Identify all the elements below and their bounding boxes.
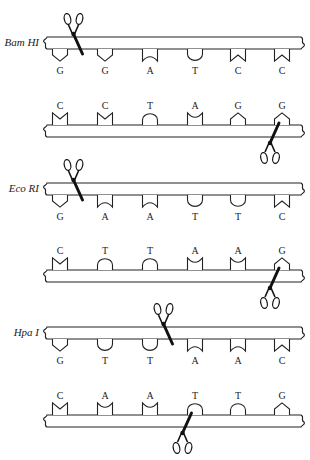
bottom-strand-backbone xyxy=(44,125,305,137)
top-base-a xyxy=(143,49,158,61)
top-base-letter: C xyxy=(279,211,286,222)
top-base-a xyxy=(143,195,158,207)
top-base-a xyxy=(231,339,246,351)
bottom-strand-backbone xyxy=(44,270,305,282)
enzyme-label: Eco RI xyxy=(8,182,41,194)
top-base-letter: G xyxy=(101,65,108,76)
top-base-c xyxy=(275,195,290,207)
top-base-letter: A xyxy=(146,65,154,76)
bottom-base-g xyxy=(275,403,290,415)
bottom-base-letter: A xyxy=(234,245,242,256)
enzyme-label: Bam HI xyxy=(4,36,40,48)
bottom-base-a xyxy=(231,258,246,270)
top-base-letter: T xyxy=(192,211,198,222)
bottom-base-letter: G xyxy=(234,100,241,111)
bottom-base-t xyxy=(231,404,246,415)
enzyme-panel: Hpa IGTTAACCAATTG xyxy=(13,303,305,454)
bottom-base-t xyxy=(98,259,113,270)
top-base-g xyxy=(98,49,113,61)
bottom-base-c xyxy=(53,113,68,125)
top-base-t xyxy=(143,339,158,350)
top-base-a xyxy=(98,195,113,207)
bottom-base-t xyxy=(143,259,158,270)
bottom-base-a xyxy=(188,258,203,270)
top-base-letter: T xyxy=(102,355,108,366)
top-base-letter: A xyxy=(191,355,199,366)
top-base-letter: T xyxy=(147,355,153,366)
bottom-base-letter: C xyxy=(102,100,109,111)
top-strand-backbone xyxy=(44,37,305,49)
bottom-base-letter: T xyxy=(147,100,153,111)
bottom-base-letter: G xyxy=(278,390,285,401)
top-base-letter: A xyxy=(101,211,109,222)
top-base-letter: G xyxy=(56,355,63,366)
bottom-base-letter: A xyxy=(101,390,109,401)
top-base-g xyxy=(53,195,68,207)
top-base-g xyxy=(53,49,68,61)
top-base-letter: G xyxy=(56,65,63,76)
bottom-base-letter: A xyxy=(146,390,154,401)
bottom-base-letter: G xyxy=(278,245,285,256)
bottom-base-c xyxy=(53,258,68,270)
bottom-strand-backbone xyxy=(44,415,305,427)
top-base-c xyxy=(275,339,290,351)
top-base-letter: C xyxy=(279,65,286,76)
bottom-base-g xyxy=(275,113,290,125)
top-base-letter: C xyxy=(235,65,242,76)
top-base-t xyxy=(188,49,203,60)
top-base-letter: A xyxy=(146,211,154,222)
top-base-t xyxy=(231,195,246,206)
top-base-letter: G xyxy=(56,211,63,222)
top-strand-backbone xyxy=(44,327,305,339)
bottom-base-letter: G xyxy=(278,100,285,111)
bottom-base-letter: T xyxy=(235,390,241,401)
bottom-base-letter: T xyxy=(102,245,108,256)
enzyme-label: Hpa I xyxy=(13,326,41,338)
bottom-base-letter: A xyxy=(191,245,199,256)
bottom-base-c xyxy=(98,113,113,125)
bottom-base-t xyxy=(143,114,158,125)
bottom-base-a xyxy=(143,403,158,415)
top-base-t xyxy=(98,339,113,350)
bottom-base-letter: C xyxy=(57,100,64,111)
top-base-letter: A xyxy=(234,355,242,366)
bottom-base-g xyxy=(231,113,246,125)
top-base-c xyxy=(231,49,246,61)
bottom-base-letter: T xyxy=(147,245,153,256)
top-base-letter: T xyxy=(192,65,198,76)
bottom-base-letter: C xyxy=(57,390,64,401)
bottom-base-g xyxy=(275,258,290,270)
bottom-base-letter: A xyxy=(191,100,199,111)
top-base-letter: C xyxy=(279,355,286,366)
top-base-letter: T xyxy=(235,211,241,222)
bottom-base-c xyxy=(53,403,68,415)
top-base-c xyxy=(275,49,290,61)
top-strand-backbone xyxy=(44,183,305,195)
enzyme-panel: Eco RIGAATTCCTTAAG xyxy=(8,159,305,309)
top-base-a xyxy=(188,339,203,351)
enzyme-panel: Bam HIGGATCCCCTAGG xyxy=(4,13,304,164)
bottom-base-letter: T xyxy=(192,390,198,401)
bottom-base-a xyxy=(98,403,113,415)
bottom-base-letter: C xyxy=(57,245,64,256)
restriction-enzyme-diagram: Bam HIGGATCCCCTAGGEco RIGAATTCCTTAAGHpa … xyxy=(0,0,310,460)
top-base-g xyxy=(53,339,68,351)
top-base-t xyxy=(188,195,203,206)
bottom-base-a xyxy=(188,113,203,125)
